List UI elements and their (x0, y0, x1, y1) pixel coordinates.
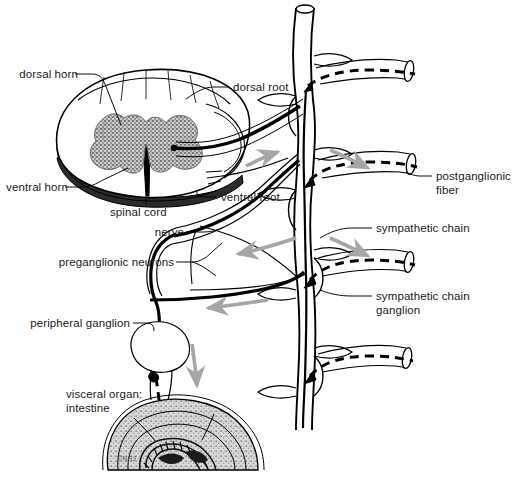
leader-preganglionic-a (176, 243, 222, 262)
label-postganglionic-fiber-line2: fiber (436, 184, 516, 198)
label-nerve: nerve (126, 226, 184, 240)
label-visceral-organ-line1: visceral organ: (66, 388, 176, 402)
label-dorsal-root: dorsal root (233, 81, 313, 95)
leader-sympathetic-chain (320, 228, 372, 238)
label-sympathetic-chain-ganglion-line2: ganglion (376, 304, 506, 318)
postganglionic-nerve-3 (304, 249, 415, 288)
peripheral-ganglion-capsule (131, 322, 190, 373)
dorsal-root-origin (171, 145, 178, 152)
leader-sympathetic-chain-ganglion (320, 290, 372, 296)
label-ventral-root: ventral root (221, 191, 301, 205)
label-sympathetic-chain-ganglion-line1: sympathetic chain (376, 290, 506, 304)
label-spinal-cord: spinal cord (110, 206, 190, 220)
chain-inner-fiber (303, 90, 306, 428)
label-peripheral-ganglion: peripheral ganglion (20, 317, 130, 331)
arrow-nerve-lower (208, 300, 268, 308)
label-visceral-organ-line2: intestine (66, 402, 176, 416)
leader-preganglionic-b (192, 262, 216, 276)
chain-right-edge (310, 8, 315, 430)
label-dorsal-horn: dorsal horn (8, 68, 78, 82)
label-sympathetic-chain: sympathetic chain (376, 222, 506, 236)
arrow-nerve-mid (238, 238, 296, 254)
chain-top-cut (296, 5, 314, 13)
chain-left-edge (293, 8, 299, 430)
arrow-peripheral-down (192, 344, 197, 386)
preganglionic-fiber-lower (150, 272, 304, 300)
diagram-canvas: dorsal horn ventral horn spinal cord dor… (0, 0, 516, 477)
postganglionic-nerve-2 (304, 151, 417, 188)
sympathetic-chain (258, 5, 352, 430)
label-preganglionic-neurons: preganglionic neurons (44, 256, 174, 270)
sympathetic-chain-ganglion-1 (289, 96, 297, 136)
flow-arrows (192, 150, 368, 386)
label-ventral-horn: ventral horn (2, 181, 68, 195)
credit-mark: ©NRJ (117, 452, 177, 466)
nerve-trunk-outline-lower (157, 244, 172, 296)
label-postganglionic-fiber-line1: postganglionic (436, 170, 516, 184)
postganglionic-nerve-1 (304, 59, 415, 92)
sympathetic-chain-ganglion-3 (314, 258, 323, 298)
